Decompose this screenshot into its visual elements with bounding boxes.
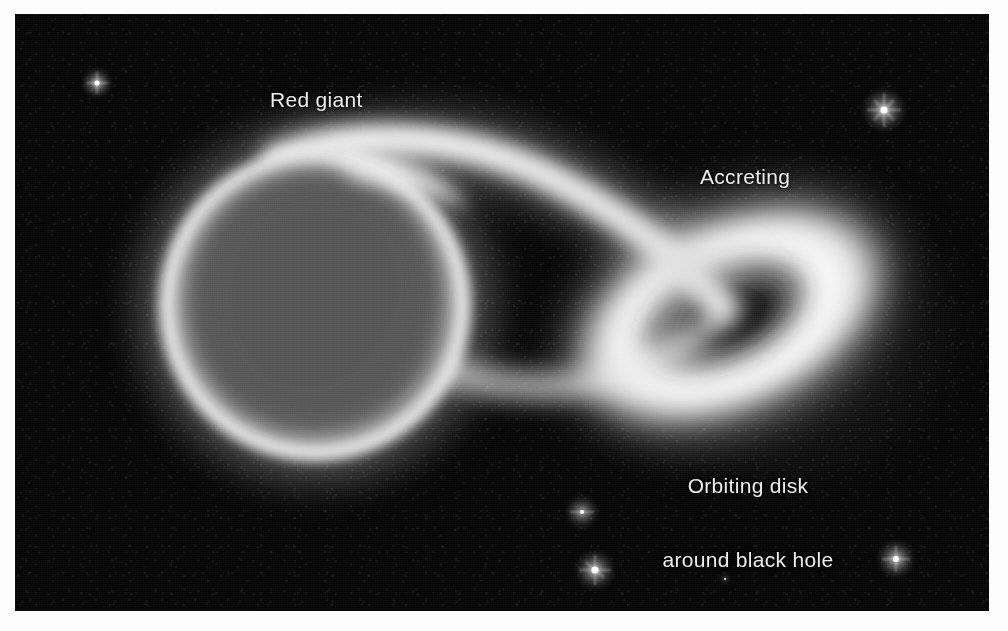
label-orbiting-line-1: Orbiting disk bbox=[643, 474, 853, 499]
label-accreting: Accreting bbox=[700, 165, 790, 190]
astronomy-illustration-figure: Red giant Accreting Orbiting disk around… bbox=[0, 0, 1008, 631]
label-orbiting-disk: Orbiting disk around black hole bbox=[643, 424, 853, 611]
label-red-giant: Red giant bbox=[270, 88, 363, 113]
label-orbiting-line-2: around black hole bbox=[643, 548, 853, 573]
starfield-plate: Red giant Accreting Orbiting disk around… bbox=[15, 14, 989, 611]
